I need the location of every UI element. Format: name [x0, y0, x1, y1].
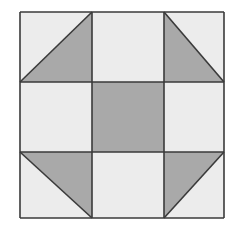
- quilt-cell-r2-c2: [164, 152, 224, 218]
- cell-square: [92, 152, 164, 218]
- cell-square: [92, 12, 164, 82]
- quilt-block-diagram: [0, 0, 247, 228]
- quilt-cell-r1-c0: [20, 82, 92, 152]
- cell-square: [92, 82, 164, 152]
- quilt-cells: [20, 12, 224, 218]
- quilt-cell-r1-c1: [92, 82, 164, 152]
- cell-square: [20, 82, 92, 152]
- quilt-cell-r2-c0: [20, 152, 92, 218]
- quilt-cell-r0-c2: [164, 12, 224, 82]
- quilt-cell-r0-c1: [92, 12, 164, 82]
- quilt-cell-r1-c2: [164, 82, 224, 152]
- quilt-cell-r0-c0: [20, 12, 92, 82]
- cell-square: [164, 82, 224, 152]
- quilt-cell-r2-c1: [92, 152, 164, 218]
